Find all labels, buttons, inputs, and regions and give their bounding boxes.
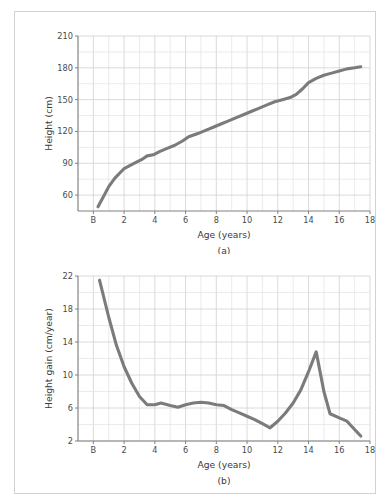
x-tick-label: 18 [365, 445, 375, 455]
x-axis-title: Age (years) [197, 229, 250, 240]
x-tick-label: 2 [121, 445, 126, 455]
y-axis-title: Height (cm) [43, 96, 54, 150]
x-tick-label: 4 [152, 445, 157, 455]
y-tick-label: 120 [57, 126, 73, 136]
y-tick-label: 2 [68, 436, 73, 446]
x-tick-label: 8 [214, 445, 219, 455]
y-tick-label: 180 [57, 63, 73, 73]
x-axis-title: Age (years) [197, 459, 250, 470]
x-tick-label: 14 [303, 445, 313, 455]
x-tick-label: 12 [273, 215, 283, 225]
y-tick-label: 60 [63, 190, 73, 200]
x-tick-label: B [91, 445, 97, 455]
height-vs-age-chart: 6090120150180210B24681012141618Age (year… [15, 14, 377, 254]
panel-caption: (b) [217, 475, 230, 486]
data-series-line [100, 280, 361, 436]
y-axis-title: Height gain (cm/year) [43, 308, 54, 409]
x-tick-label: B [91, 215, 97, 225]
y-tick-label: 10 [63, 370, 73, 380]
y-tick-label: 6 [68, 403, 73, 413]
y-tick-label: 150 [57, 95, 73, 105]
x-tick-label: 16 [334, 445, 344, 455]
x-tick-label: 14 [303, 215, 313, 225]
data-series-line [98, 67, 361, 207]
y-tick-label: 22 [63, 271, 73, 281]
x-tick-label: 16 [334, 215, 344, 225]
x-tick-label: 18 [365, 215, 375, 225]
x-tick-label: 12 [273, 445, 283, 455]
x-tick-label: 2 [121, 215, 126, 225]
chart-panel-b: 2610141822B24681012141618Age (years)Heig… [15, 256, 377, 494]
height-gain-vs-age-chart: 2610141822B24681012141618Age (years)Heig… [15, 256, 377, 494]
panel-caption: (a) [218, 245, 231, 254]
x-tick-label: 6 [183, 215, 188, 225]
x-tick-label: 6 [183, 445, 188, 455]
x-tick-label: 8 [214, 215, 219, 225]
y-tick-label: 210 [57, 31, 73, 41]
y-tick-label: 14 [63, 337, 73, 347]
x-tick-label: 10 [242, 215, 252, 225]
x-tick-label: 4 [152, 215, 157, 225]
x-tick-label: 10 [242, 445, 252, 455]
y-tick-label: 18 [63, 304, 73, 314]
figure-frame: 6090120150180210B24681012141618Age (year… [14, 11, 376, 494]
chart-panel-a: 6090120150180210B24681012141618Age (year… [15, 14, 377, 254]
y-tick-label: 90 [63, 158, 73, 168]
